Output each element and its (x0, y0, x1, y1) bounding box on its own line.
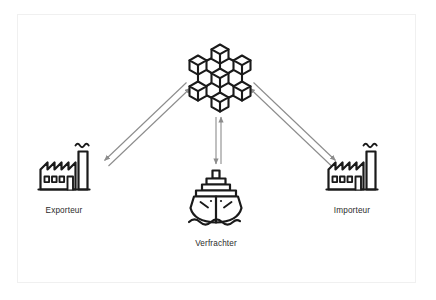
blockchain-network-cubes-icon (184, 40, 256, 116)
node-importer-label: Importeur (334, 206, 370, 215)
node-importer[interactable]: Importeur (321, 138, 383, 215)
node-exporter[interactable]: Exporteur (33, 138, 95, 215)
node-carrier[interactable]: Verfrachter (181, 168, 251, 248)
node-exporter-label: Exporteur (46, 206, 83, 215)
cargo-ship-icon (181, 168, 251, 232)
factory-icon (33, 138, 95, 200)
node-carrier-label: Verfrachter (195, 239, 237, 248)
node-blockchain[interactable] (184, 40, 256, 116)
factory-icon (321, 138, 383, 200)
diagram-canvas: Exporteur (0, 0, 436, 300)
